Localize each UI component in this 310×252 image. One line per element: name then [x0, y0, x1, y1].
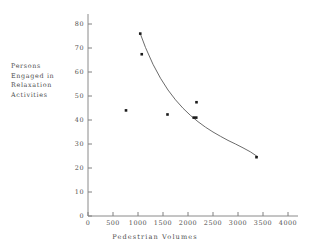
data-point-marker: [139, 32, 142, 35]
axes-group: [88, 14, 298, 216]
y-tick-label: 80: [58, 20, 84, 28]
y-tick-label: 30: [58, 140, 84, 148]
y-tick-label: 70: [58, 44, 84, 52]
data-point-marker: [125, 109, 128, 112]
y-tick-label: 10: [58, 188, 84, 196]
data-point-marker: [255, 156, 258, 159]
trend-line: [140, 34, 258, 157]
data-point-marker: [195, 116, 198, 119]
x-tick-label: 4000: [272, 219, 304, 227]
data-point-marker: [166, 113, 169, 116]
y-tick-label: 60: [58, 68, 84, 76]
y-tick-label: 20: [58, 164, 84, 172]
x-tick-marks: [88, 212, 288, 216]
data-point-marker: [140, 53, 143, 56]
y-tick-label: 50: [58, 92, 84, 100]
scatter-chart: Persons Engaged in Relaxation Activities…: [0, 0, 310, 252]
y-tick-label: 40: [58, 116, 84, 124]
plot-area: [0, 0, 310, 252]
data-points: [125, 32, 258, 158]
fitted-curve: [140, 34, 258, 157]
data-point-marker: [192, 116, 195, 119]
y-tick-marks: [88, 24, 92, 216]
data-point-marker: [195, 101, 198, 104]
